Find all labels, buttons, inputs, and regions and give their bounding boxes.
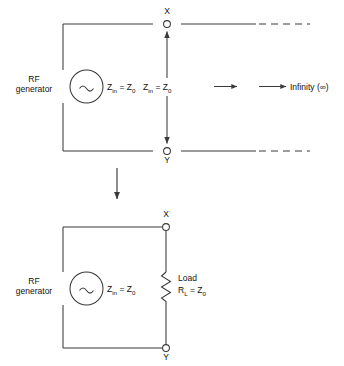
ac-source-circle-top xyxy=(70,70,103,103)
infinity-label: Infinity (∞) xyxy=(290,82,329,92)
terminal-label-y-top: Y xyxy=(157,155,177,165)
rf-generator-label-top: RF generator xyxy=(8,74,60,94)
source-impedance-top: Zin = Z0 xyxy=(107,82,135,92)
terminal-label-x-bottom: X xyxy=(156,209,176,219)
rf-label-line1-bottom: RF xyxy=(28,276,39,286)
source-impedance-bottom: Zin = Z0 xyxy=(107,284,135,294)
terminal-y-bottom-circuit xyxy=(163,345,170,352)
rf-label-line2-bottom: generator xyxy=(16,286,52,296)
terminal-label-y-bottom: Y xyxy=(156,352,176,362)
rf-label-line2: generator xyxy=(16,84,52,94)
circuit-artwork xyxy=(0,0,344,366)
rf-label-line1: RF xyxy=(28,74,39,84)
terminal-x-top-circuit xyxy=(164,21,171,28)
rf-generator-label-bottom: RF generator xyxy=(8,276,60,296)
figure-canvas: RF generator Zin = Z0 Zin = Z0 Infinity … xyxy=(0,0,344,366)
load-value-label: RL = Z0 xyxy=(178,285,206,295)
ac-source-circle-bottom xyxy=(70,272,103,305)
load-label: Load xyxy=(178,273,197,283)
line-impedance-label: Zin = Z0 xyxy=(143,82,171,92)
terminal-label-x-top: X xyxy=(157,6,177,16)
zigzag-resistor-icon xyxy=(162,272,171,305)
terminal-y-top-circuit xyxy=(164,148,171,155)
terminal-x-bottom-circuit xyxy=(163,224,170,231)
